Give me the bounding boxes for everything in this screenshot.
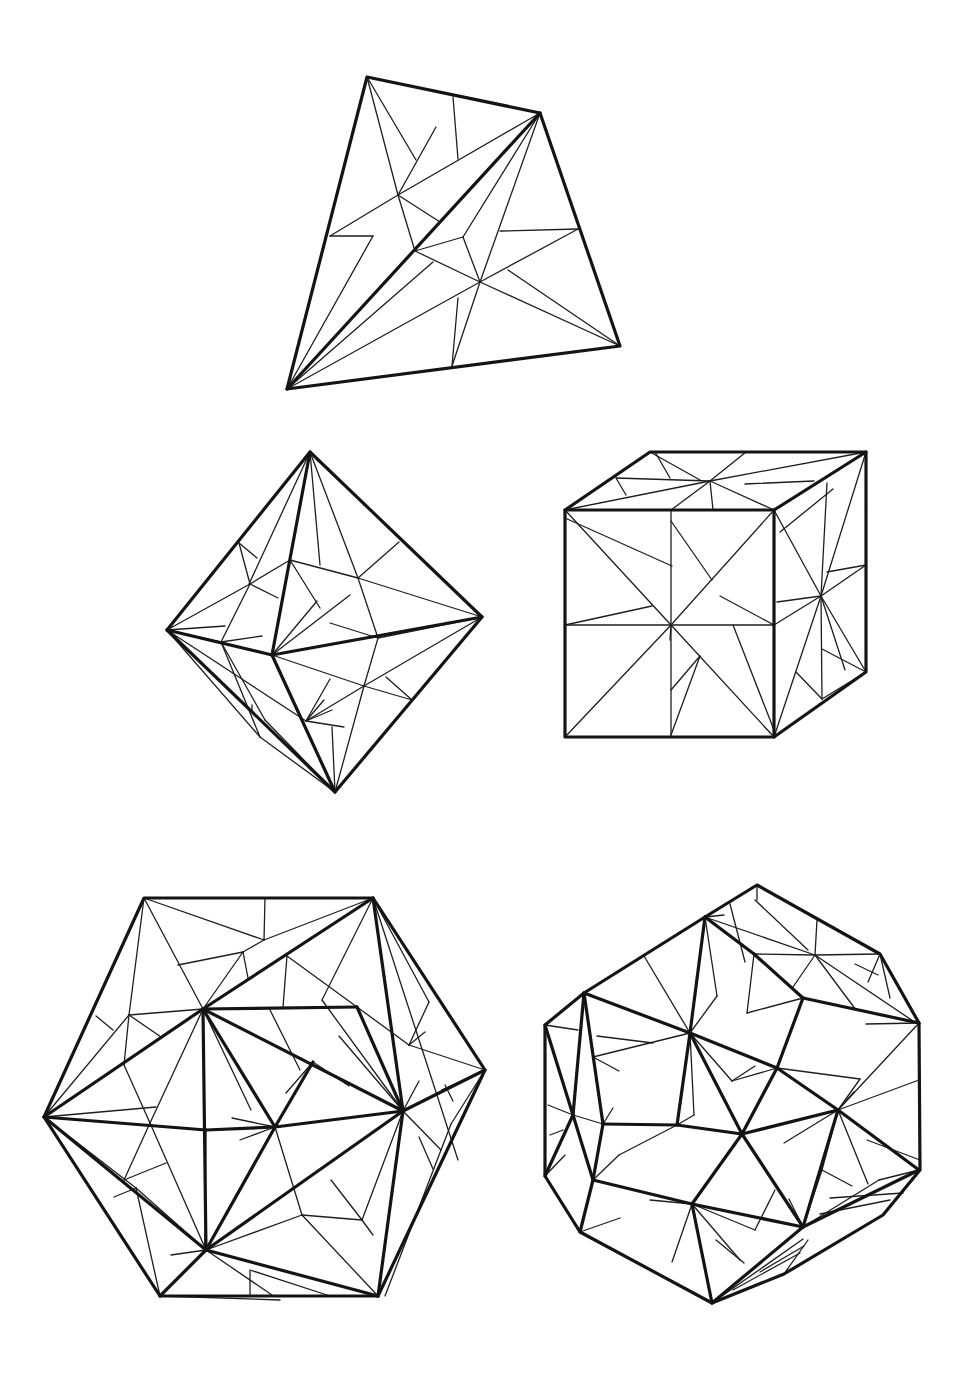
- polyhedra-illustration: [0, 0, 979, 1399]
- dodecahedron-edge: [603, 1124, 677, 1125]
- icosahedron-edge: [203, 1007, 357, 1009]
- background: [0, 0, 979, 1399]
